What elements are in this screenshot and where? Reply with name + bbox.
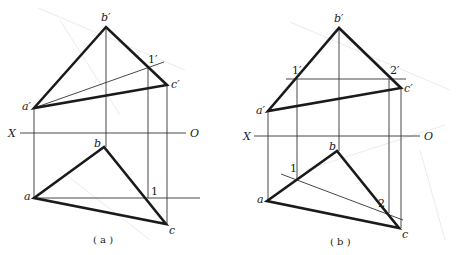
label-1-b: 1 <box>290 162 297 175</box>
label-a-prime-a: a′ <box>22 100 32 113</box>
triangle-elevation-a <box>34 27 167 108</box>
label-2-prime-b: 2′ <box>390 64 400 77</box>
label-1-a: 1 <box>151 185 158 198</box>
label-2-b: 2 <box>378 197 385 210</box>
triangle-plan-b <box>267 151 399 228</box>
axis-label-o-a: O <box>190 127 199 140</box>
label-c-a: c <box>169 224 175 237</box>
label-1-prime-a: 1′ <box>148 53 158 66</box>
label-b-b: b <box>329 140 336 153</box>
axis-label-x-a: X <box>7 127 17 140</box>
projection-diagrams: X O b′ a′ c′ 1′ b a c 1 ( a ) X O <box>0 0 457 255</box>
triangle-plan-a <box>34 147 166 224</box>
label-a-prime-b: a′ <box>256 104 266 117</box>
axis-label-o-b: O <box>424 130 433 143</box>
label-a-b: a <box>257 193 264 206</box>
axis-label-x-b: X <box>242 130 252 143</box>
diagram-b: X O b′ a′ c′ 1′ 2′ b a c 1 2 ( b ) <box>242 12 433 247</box>
label-a-a: a <box>24 190 31 203</box>
background-ghost-lines <box>38 8 450 240</box>
label-c-b: c <box>402 228 408 241</box>
caption-a: ( a ) <box>93 234 113 245</box>
label-c-prime-b: c′ <box>404 82 413 95</box>
label-b-a: b <box>94 137 101 150</box>
label-c-prime-a: c′ <box>171 78 180 91</box>
label-b-prime-b: b′ <box>334 12 344 25</box>
diagram-a: X O b′ a′ c′ 1′ b a c 1 ( a ) <box>7 11 200 245</box>
label-b-prime-a: b′ <box>101 11 111 24</box>
label-1-prime-b: 1′ <box>292 64 302 77</box>
caption-b: ( b ) <box>330 236 351 247</box>
